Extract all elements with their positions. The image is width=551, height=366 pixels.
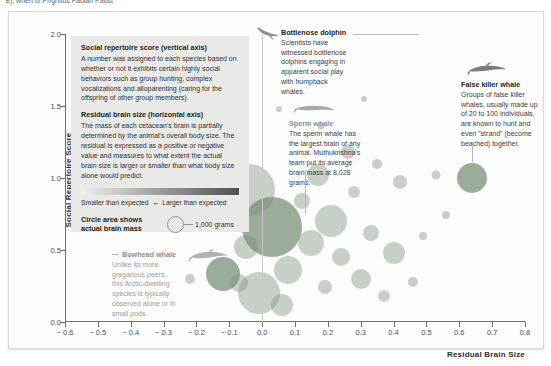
x-tick xyxy=(394,322,395,327)
circle-key-value: 1,000 grams xyxy=(195,221,234,228)
x-tick xyxy=(459,322,460,327)
annotation-body-bowhead-whale: Unlike its more gregarious peers, this A… xyxy=(112,260,176,319)
x-tick xyxy=(295,322,296,327)
x-tick xyxy=(262,322,263,327)
x-tick-label: 0.3 xyxy=(355,328,365,337)
x-tick xyxy=(65,322,66,327)
bubble xyxy=(383,242,405,264)
legend-heading-horizontal: Residual brain size (horizontal axis) xyxy=(81,110,239,120)
x-tick xyxy=(525,322,526,327)
x-axis-title: Residual Brain Size xyxy=(447,350,525,359)
annotation-title-bottlenose-dolphin: Bottlenose dolphin xyxy=(281,28,346,38)
x-tick xyxy=(164,322,165,327)
legend-panel: Social repertoire score (vertical axis) … xyxy=(71,36,249,232)
x-tick-label: 0.8 xyxy=(520,328,530,337)
bubble xyxy=(361,96,367,102)
gradient-label-left: Smaller than expected xyxy=(81,199,149,206)
x-tick xyxy=(328,322,329,327)
sperm-whale-silhouette-icon xyxy=(293,103,335,116)
bubble xyxy=(378,290,390,302)
y-tick-label: 1.5 xyxy=(51,102,61,111)
annotation-false-killer-whale: False killer whale Groups of false kille… xyxy=(461,80,539,149)
x-tick-label: 0.4 xyxy=(388,328,398,337)
gradient-label-right: Larger than expected xyxy=(162,199,226,206)
x-tick xyxy=(229,322,230,327)
circle-key-label: Circle area shows actual brain mass xyxy=(81,215,153,234)
x-tick xyxy=(426,322,427,327)
circle-key-sample-icon xyxy=(167,216,184,233)
bubble xyxy=(442,211,450,219)
legend-text-horizontal: The mass of each cetacean's brain is par… xyxy=(81,121,239,181)
bubble xyxy=(276,106,282,112)
annotation-body-false-killer-whale: Groups of false killer whales, usually m… xyxy=(461,90,539,149)
annotation-body-bottlenose-dolphin: Scientists have witnessed bottlenose dol… xyxy=(281,38,353,97)
bubble xyxy=(185,274,195,284)
legend-heading-vertical: Social repertoire score (vertical axis) xyxy=(81,43,239,53)
annotation-title-bowhead-whale: Bowhead whale xyxy=(122,250,176,260)
bubble xyxy=(318,280,332,294)
leader-bottlenose-dolphin xyxy=(353,34,419,35)
x-tick-label: − 0.5 xyxy=(89,328,106,337)
x-tick-label: − 0.6 xyxy=(57,328,74,337)
x-tick-label: − 0.3 xyxy=(155,328,172,337)
bubble xyxy=(274,256,302,284)
bubble xyxy=(432,171,441,180)
annotation-bottlenose-dolphin: Bottlenose dolphin Scientists have witne… xyxy=(281,28,353,97)
x-tick-label: − 0.4 xyxy=(122,328,139,337)
leader-false-killer-whale xyxy=(472,142,473,162)
figure-frame: Social Repertoire Score 2.01.51.00.50.0 … xyxy=(8,11,544,349)
bubble xyxy=(393,175,407,189)
bubble xyxy=(348,186,360,198)
x-tick-label: 0.0 xyxy=(257,328,267,337)
annotation-bowhead-whale: Bowhead whale Unlike its more gregarious… xyxy=(112,250,176,319)
x-tick-label: − 0.1 xyxy=(221,328,238,337)
bubble xyxy=(363,225,379,241)
x-tick-label: − 0.2 xyxy=(188,328,205,337)
y-tick-label: 2.0 xyxy=(51,30,61,39)
bubble xyxy=(332,248,350,266)
x-tick-label: 0.1 xyxy=(290,328,300,337)
top-cut-caption: e), when of Prignitus Fabian Pabst xyxy=(6,0,266,6)
bubble xyxy=(408,277,418,287)
residual-gradient-bar xyxy=(81,188,239,195)
x-tick-label: 0.5 xyxy=(421,328,431,337)
dolphin-silhouette-icon xyxy=(256,26,280,40)
x-tick xyxy=(98,322,99,327)
leader-bowhead-whale xyxy=(112,254,119,255)
annotation-sperm-whale: Sperm whale The sperm whale has the larg… xyxy=(289,119,361,188)
zero-reference-line xyxy=(262,34,263,322)
bubble-false-killer-whale xyxy=(457,163,487,193)
bubble xyxy=(351,269,371,289)
bowhead-whale-silhouette-icon xyxy=(187,248,229,265)
bubble xyxy=(271,294,293,316)
x-tick-label: 0.6 xyxy=(454,328,464,337)
x-tick-label: 0.2 xyxy=(323,328,333,337)
annotation-title-sperm-whale: Sperm whale xyxy=(289,119,361,129)
circle-key-leader xyxy=(184,224,193,225)
bubble xyxy=(372,159,382,169)
x-tick-label: 0.7 xyxy=(487,328,497,337)
figure-root: e), when of Prignitus Fabian Pabst Socia… xyxy=(0,0,551,366)
annotation-title-false-killer-whale: False killer whale xyxy=(461,80,539,90)
gradient-arrow-icon: ↔ xyxy=(152,198,160,207)
bubble-sperm-whale xyxy=(242,197,302,257)
legend-text-vertical: A number was assigned to each species ba… xyxy=(81,54,239,104)
false-killer-whale-silhouette-icon xyxy=(467,62,507,77)
gradient-caption: Smaller than expected ↔ Larger than expe… xyxy=(81,198,239,207)
bubble xyxy=(315,205,347,237)
circle-size-key: Circle area shows actual brain mass 1,00… xyxy=(81,215,239,234)
y-tick-label: 0.5 xyxy=(51,246,61,255)
annotation-body-sperm-whale: The sperm whale has the largest brain of… xyxy=(289,129,361,188)
y-tick-label: 0.0 xyxy=(51,318,61,327)
x-tick xyxy=(361,322,362,327)
x-tick xyxy=(131,322,132,327)
bubble xyxy=(294,193,310,209)
leader-sperm-whale xyxy=(305,170,306,214)
bubble xyxy=(419,232,427,240)
y-axis-line xyxy=(65,34,66,322)
x-tick xyxy=(196,322,197,327)
y-tick-label: 1.0 xyxy=(51,174,61,183)
x-tick xyxy=(492,322,493,327)
